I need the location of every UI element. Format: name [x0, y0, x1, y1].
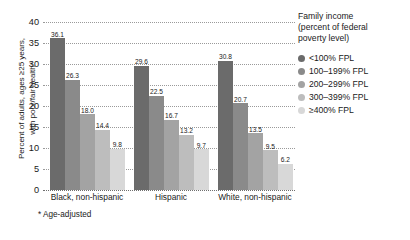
bar[interactable]: 13.2: [179, 135, 194, 190]
legend-item[interactable]: 200–299% FPL: [298, 78, 410, 91]
legend-item-label: 200–299% FPL: [309, 80, 368, 89]
legend-items: <100% FPL100–199% FPL200–299% FPL300–399…: [298, 52, 410, 117]
bar-value-label: 14.4: [96, 122, 109, 129]
chart-footnote: * Age-adjusted: [38, 210, 91, 220]
legend-item-label: ≥400% FPL: [309, 106, 354, 115]
bar-value-label: 36.1: [51, 31, 64, 38]
bar-value-label: 9.8: [113, 141, 122, 148]
bar[interactable]: 29.6: [134, 66, 149, 190]
legend-item[interactable]: 100–199% FPL: [298, 65, 410, 78]
legend-item[interactable]: 300–399% FPL: [298, 91, 410, 104]
legend-swatch-icon: [298, 55, 305, 62]
x-tick-label: Black, non-hispanic: [51, 192, 124, 202]
bar[interactable]: 22.5: [149, 96, 164, 191]
legend-swatch-icon: [298, 107, 305, 114]
bar[interactable]: 9.7: [194, 149, 209, 190]
bar-value-label: 20.7: [234, 96, 247, 103]
bar[interactable]: 9.5: [263, 150, 278, 190]
bar[interactable]: 18.0: [80, 114, 95, 190]
y-tick-label: 15: [29, 123, 39, 132]
bar[interactable]: 16.7: [164, 120, 179, 190]
legend-item[interactable]: <100% FPL: [298, 52, 410, 65]
legend: Family income (percent of federal povert…: [298, 11, 410, 117]
bar-value-label: 26.3: [66, 72, 79, 79]
bar-value-label: 13.2: [180, 127, 193, 134]
y-tick-label: 35: [29, 39, 39, 48]
legend-item-label: 300–399% FPL: [309, 93, 368, 102]
legend-item-label: <100% FPL: [309, 54, 354, 63]
y-tick-label: 40: [29, 18, 39, 27]
legend-title-line-3: poverty level): [298, 33, 410, 44]
legend-swatch-icon: [298, 68, 305, 75]
y-tick-label: 10: [29, 144, 39, 153]
bar[interactable]: 26.3: [65, 80, 80, 190]
legend-swatch-icon: [298, 81, 305, 88]
bar-value-label: 6.2: [281, 156, 290, 163]
y-tick-label: 5: [34, 165, 39, 174]
legend-swatch-icon: [298, 94, 305, 101]
bar-value-label: 9.5: [266, 143, 275, 150]
legend-item[interactable]: ≥400% FPL: [298, 104, 410, 117]
x-tick-label: White, non-hispanic: [218, 192, 292, 202]
gridline: 0: [43, 190, 295, 191]
bar-group: 36.126.318.014.49.8: [50, 22, 125, 190]
legend-title: Family income (percent of federal povert…: [298, 11, 410, 45]
bar[interactable]: 36.1: [50, 38, 65, 190]
y-tick-label: 0: [34, 186, 39, 195]
bar-value-label: 16.7: [165, 112, 178, 119]
bar-group: 30.820.713.59.56.2: [218, 22, 293, 190]
bar-value-label: 9.7: [197, 142, 206, 149]
bar-value-label: 30.8: [219, 53, 232, 60]
bar-value-label: 13.5: [249, 126, 262, 133]
bar-chart: Percent of adults, ages ≥25 years, with …: [0, 0, 410, 240]
y-tick-label: 30: [29, 60, 39, 69]
bar[interactable]: 20.7: [233, 103, 248, 190]
bar[interactable]: 6.2: [278, 164, 293, 190]
y-axis-title-line-1: Percent of adults, ages ≥25 years,: [17, 4, 28, 194]
bar-value-label: 22.5: [150, 88, 163, 95]
legend-title-line-1: Family income: [298, 11, 410, 22]
legend-item-label: 100–199% FPL: [309, 67, 368, 76]
legend-title-line-2: (percent of federal: [298, 22, 410, 33]
bar[interactable]: 14.4: [95, 130, 110, 190]
bar[interactable]: 9.8: [110, 149, 125, 190]
bar-group: 29.622.516.713.29.7: [134, 22, 209, 190]
bar-value-label: 29.6: [135, 58, 148, 65]
bar[interactable]: 13.5: [248, 133, 263, 190]
x-tick-label: Hispanic: [155, 192, 187, 202]
y-tick-label: 20: [29, 102, 39, 111]
bar-value-label: 18.0: [81, 107, 94, 114]
bar[interactable]: 30.8: [218, 61, 233, 190]
y-tick-label: 25: [29, 81, 39, 90]
plot-area: 403530252015105036.126.318.014.49.829.62…: [43, 22, 295, 190]
